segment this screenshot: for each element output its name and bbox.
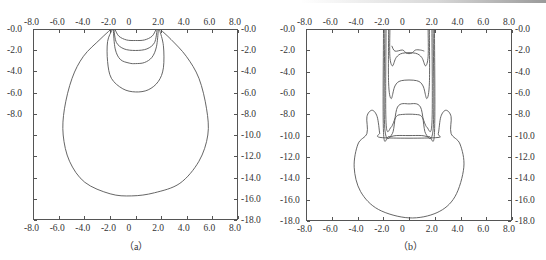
y-tick-mark-right xyxy=(234,199,237,200)
plot-area-b xyxy=(306,29,512,221)
y-tick-label-right: -8.0 xyxy=(241,109,256,119)
contour-line-contour-outer xyxy=(383,30,435,141)
x-tick-mark xyxy=(212,216,213,219)
x-tick-mark xyxy=(306,217,307,220)
y-tick-mark-right xyxy=(234,71,237,72)
x-tick-label-bottom: -4.0 xyxy=(349,224,364,234)
x-tick-label-top: 8.0 xyxy=(229,17,241,27)
plot-area-a xyxy=(33,29,238,220)
x-tick-mark xyxy=(161,30,162,33)
x-tick-mark xyxy=(110,216,111,219)
x-tick-label-top: -2.0 xyxy=(374,17,389,27)
x-tick-mark xyxy=(306,30,307,33)
y-tick-mark-right xyxy=(508,136,511,137)
x-tick-mark xyxy=(212,30,213,33)
x-tick-mark xyxy=(59,30,60,33)
x-tick-mark xyxy=(110,30,111,33)
y-tick-label-left: -4.0 xyxy=(7,66,22,76)
x-tick-label-bottom: 6.0 xyxy=(477,224,489,234)
x-tick-mark xyxy=(332,217,333,220)
x-tick-label-bottom: 4.0 xyxy=(178,223,190,233)
y-tick-mark-left xyxy=(307,72,310,73)
x-tick-label-bottom: -2.0 xyxy=(101,223,116,233)
y-tick-mark-right xyxy=(508,157,511,158)
x-tick-label-bottom: -6.0 xyxy=(50,223,65,233)
x-tick-label-top: 2.0 xyxy=(426,17,438,27)
x-tick-label-top: 6.0 xyxy=(477,17,489,27)
y-tick-mark-left xyxy=(34,93,37,94)
y-tick-mark-left xyxy=(34,220,37,221)
y-tick-mark-left xyxy=(34,178,37,179)
y-tick-label-left: -0.0 xyxy=(280,24,295,34)
y-tick-mark-right xyxy=(234,50,237,51)
y-tick-mark-right xyxy=(234,114,237,115)
top-border-band xyxy=(0,0,546,3)
y-tick-label-right: -6.0 xyxy=(241,88,256,98)
y-tick-label-left: -14.0 xyxy=(280,173,300,183)
y-tick-label-left: -6.0 xyxy=(7,88,22,98)
y-tick-label-left: -6.0 xyxy=(280,88,295,98)
y-tick-label-left: -18.0 xyxy=(280,216,300,226)
x-tick-mark xyxy=(461,30,462,33)
x-tick-label-top: 2.0 xyxy=(152,17,164,27)
x-tick-mark xyxy=(358,30,359,33)
x-tick-mark xyxy=(486,217,487,220)
y-tick-label-right: -4.0 xyxy=(515,67,530,77)
x-tick-label-top: -4.0 xyxy=(75,17,90,27)
x-tick-label-bottom: 0 xyxy=(127,223,132,233)
y-tick-label-right: -16.0 xyxy=(241,194,261,204)
x-tick-mark xyxy=(136,216,137,219)
x-tick-label-bottom: 2.0 xyxy=(426,224,438,234)
x-tick-label-bottom: 2.0 xyxy=(152,223,164,233)
x-tick-mark xyxy=(409,30,410,33)
contour-line-contour-top-2 xyxy=(390,30,429,66)
y-tick-mark-right xyxy=(234,220,237,221)
x-tick-label-bottom: -2.0 xyxy=(374,224,389,234)
x-tick-label-bottom: 4.0 xyxy=(452,224,464,234)
x-tick-label-top: -6.0 xyxy=(50,17,65,27)
contour-line-contour-mid xyxy=(388,30,429,99)
x-tick-mark xyxy=(435,30,436,33)
y-tick-label-left: -0.0 xyxy=(7,24,22,34)
y-tick-mark-left xyxy=(307,221,310,222)
x-tick-label-bottom: -6.0 xyxy=(323,224,338,234)
y-tick-mark-left xyxy=(307,178,310,179)
x-tick-label-top: -8.0 xyxy=(297,17,312,27)
x-tick-mark xyxy=(187,30,188,33)
contour-plot-a xyxy=(34,30,237,219)
y-tick-label-right: -8.0 xyxy=(515,109,530,119)
y-tick-mark-right xyxy=(508,93,511,94)
x-tick-mark xyxy=(358,217,359,220)
y-tick-label-right: -0.0 xyxy=(241,24,256,34)
y-tick-mark-left xyxy=(307,29,310,30)
y-tick-mark-left xyxy=(34,50,37,51)
y-tick-mark-right xyxy=(508,29,511,30)
y-tick-label-left: -8.0 xyxy=(280,109,295,119)
y-tick-mark-right xyxy=(234,135,237,136)
x-tick-label-bottom: -8.0 xyxy=(24,223,39,233)
y-tick-label-right: -14.0 xyxy=(515,173,535,183)
x-tick-mark xyxy=(187,216,188,219)
y-tick-label-right: -4.0 xyxy=(241,66,256,76)
y-tick-mark-right xyxy=(508,50,511,51)
y-tick-label-right: -14.0 xyxy=(241,173,261,183)
y-tick-mark-left xyxy=(34,199,37,200)
x-tick-mark xyxy=(33,216,34,219)
y-tick-label-left: -4.0 xyxy=(280,67,295,77)
y-tick-mark-right xyxy=(508,221,511,222)
contour-line-contour-inner-band xyxy=(386,30,433,132)
y-tick-label-right: -2.0 xyxy=(515,45,530,55)
y-tick-label-left: -2.0 xyxy=(7,45,22,55)
x-tick-mark xyxy=(238,30,239,33)
y-tick-label-right: -6.0 xyxy=(515,88,530,98)
x-tick-mark xyxy=(383,217,384,220)
x-tick-label-top: 0 xyxy=(127,17,132,27)
x-tick-mark xyxy=(161,216,162,219)
x-tick-mark xyxy=(84,30,85,33)
y-tick-mark-left xyxy=(307,136,310,137)
y-tick-mark-left xyxy=(307,114,310,115)
y-tick-label-left: -8.0 xyxy=(7,109,22,119)
y-tick-mark-left xyxy=(307,50,310,51)
caption-a: （a） xyxy=(124,238,148,253)
y-tick-label-right: -18.0 xyxy=(515,216,535,226)
